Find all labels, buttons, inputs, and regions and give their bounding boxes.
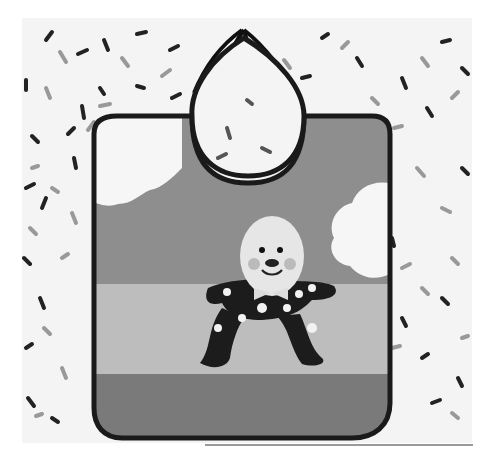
caption-rule xyxy=(205,444,473,446)
bib-illustration xyxy=(22,18,472,443)
bib-photo xyxy=(22,18,472,443)
